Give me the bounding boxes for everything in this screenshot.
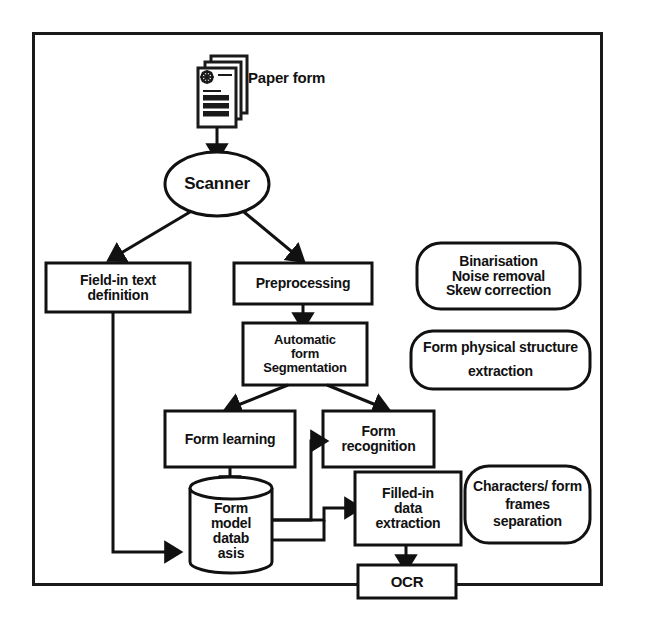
form-recognition-node xyxy=(323,411,434,467)
gear-icon xyxy=(200,70,214,84)
annotation-segmentation-shape xyxy=(411,331,590,389)
diagram-canvas xyxy=(0,0,650,637)
form-model-database-node xyxy=(190,477,272,573)
ocr-node xyxy=(358,565,456,598)
automatic-form-segmentation-node xyxy=(243,323,367,385)
annotation-preprocessing-shape xyxy=(417,243,580,309)
scanner-node xyxy=(165,152,269,216)
preprocessing-node xyxy=(234,263,372,304)
annotation-extraction-shape xyxy=(465,466,590,543)
form-learning-node xyxy=(165,411,295,467)
paper-form-icon xyxy=(198,56,247,127)
field-in-text-definition-node xyxy=(46,263,190,312)
flowchart-diagram: Paper form Scanner Field-in text definit… xyxy=(0,0,650,637)
filled-in-data-extraction-node xyxy=(355,472,461,545)
